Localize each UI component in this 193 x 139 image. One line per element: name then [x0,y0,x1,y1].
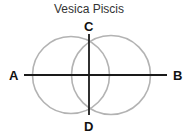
label-c: C [84,20,93,33]
label-d: D [84,120,93,133]
vesica-piscis-diagram [0,0,193,139]
label-a: A [9,69,18,82]
label-b: B [173,69,182,82]
